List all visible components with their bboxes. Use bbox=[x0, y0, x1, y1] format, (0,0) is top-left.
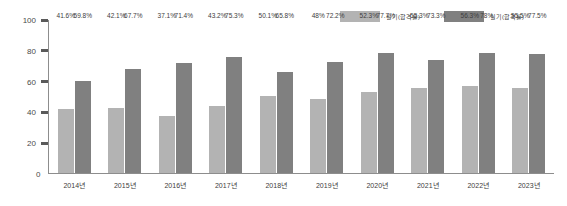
bar-column: 67.7% bbox=[125, 20, 141, 173]
bar-value-label: 59.8% bbox=[74, 12, 92, 19]
bar-value-label: 67.7% bbox=[124, 12, 142, 19]
bar[interactable]: 56.3% bbox=[462, 86, 478, 173]
bar-value-label: 65.8% bbox=[276, 12, 294, 19]
bar-value-label: 55.3% bbox=[410, 12, 428, 19]
bar-value-label: 37.1% bbox=[158, 12, 176, 19]
bar-group: 37.1%71.4% bbox=[150, 20, 201, 173]
plot-area: 020406080100 41.6%59.8%42.1%67.7%37.1%71… bbox=[48, 20, 554, 174]
bar-column: 77.5% bbox=[529, 20, 545, 173]
bar[interactable]: 75.3% bbox=[226, 57, 242, 173]
y-tick-label-20: 20 bbox=[27, 139, 36, 148]
x-axis-label: 2015년 bbox=[100, 180, 151, 190]
bar[interactable]: 71.4% bbox=[176, 63, 192, 173]
y-tick-100: 100 bbox=[41, 19, 48, 22]
bar-value-label: 42.1% bbox=[107, 12, 125, 19]
bar-chart: 필기(합격률) 실기(합격률) 020406080100 41.6%59.8%4… bbox=[0, 0, 567, 206]
bar-group: 43.2%75.3% bbox=[201, 20, 252, 173]
bar-groups: 41.6%59.8%42.1%67.7%37.1%71.4%43.2%75.3%… bbox=[49, 20, 554, 173]
y-tick-20: 20 bbox=[41, 142, 48, 145]
bar-pair: 37.1%71.4% bbox=[150, 20, 201, 173]
bar[interactable]: 50.1% bbox=[260, 96, 276, 173]
bar-pair: 41.6%59.8% bbox=[49, 20, 100, 173]
bar[interactable]: 67.7% bbox=[125, 69, 141, 173]
y-tick-label-80: 80 bbox=[27, 46, 36, 55]
bar-group: 55.5%77.5% bbox=[504, 20, 555, 173]
bar-value-label: 41.6% bbox=[57, 12, 75, 19]
bar[interactable]: 59.8% bbox=[75, 81, 91, 173]
bar-column: 50.1% bbox=[260, 20, 276, 173]
bar[interactable]: 65.8% bbox=[277, 72, 293, 173]
bar-column: 73.3% bbox=[428, 20, 444, 173]
x-axis-label: 2014년 bbox=[49, 180, 100, 190]
bar-pair: 56.3%78% bbox=[453, 20, 504, 173]
bar-pair: 55.5%77.5% bbox=[504, 20, 555, 173]
bar-value-label: 48% bbox=[312, 12, 325, 19]
bar[interactable]: 78% bbox=[479, 53, 495, 173]
bar-group: 52.3%77.7% bbox=[352, 20, 403, 173]
y-tick-40: 40 bbox=[41, 111, 48, 114]
bar-column: 56.3% bbox=[462, 20, 478, 173]
bar-pair: 42.1%67.7% bbox=[100, 20, 151, 173]
x-axis-label: 2016년 bbox=[150, 180, 201, 190]
x-axis-labels: 2014년2015년2016년2017년2018년2019년2020년2021년… bbox=[49, 180, 554, 190]
x-axis-label: 2017년 bbox=[201, 180, 252, 190]
bar[interactable]: 42.1% bbox=[108, 108, 124, 173]
bar[interactable]: 72.2% bbox=[327, 62, 343, 173]
bar[interactable]: 48% bbox=[310, 99, 326, 173]
x-axis-line bbox=[48, 173, 554, 174]
bar-column: 71.4% bbox=[176, 20, 192, 173]
bar[interactable]: 55.3% bbox=[411, 88, 427, 173]
bar-column: 48% bbox=[310, 20, 326, 173]
x-axis-label: 2022년 bbox=[453, 180, 504, 190]
x-axis-label: 2019년 bbox=[302, 180, 353, 190]
x-axis-label: 2020년 bbox=[352, 180, 403, 190]
bar-column: 52.3% bbox=[361, 20, 377, 173]
bar-group: 42.1%67.7% bbox=[100, 20, 151, 173]
bar-pair: 43.2%75.3% bbox=[201, 20, 252, 173]
bar[interactable]: 43.2% bbox=[209, 106, 225, 173]
bar-column: 75.3% bbox=[226, 20, 242, 173]
bar-column: 55.5% bbox=[512, 20, 528, 173]
bar-column: 59.8% bbox=[75, 20, 91, 173]
bar-column: 78% bbox=[479, 20, 495, 173]
y-tick-80: 80 bbox=[41, 49, 48, 52]
bar-column: 41.6% bbox=[58, 20, 74, 173]
bar-pair: 50.1%65.8% bbox=[251, 20, 302, 173]
bar-value-label: 72.2% bbox=[326, 12, 344, 19]
bar-value-label: 77.5% bbox=[528, 12, 546, 19]
bar-value-label: 77.7% bbox=[377, 12, 395, 19]
bar-column: 65.8% bbox=[277, 20, 293, 173]
x-axis-label: 2018년 bbox=[251, 180, 302, 190]
bar-value-label: 50.1% bbox=[259, 12, 277, 19]
bar-group: 48%72.2% bbox=[302, 20, 353, 173]
bar-value-label: 55.5% bbox=[511, 12, 529, 19]
bar-group: 41.6%59.8% bbox=[49, 20, 100, 173]
bar-column: 43.2% bbox=[209, 20, 225, 173]
bar-column: 37.1% bbox=[159, 20, 175, 173]
bar[interactable]: 52.3% bbox=[361, 92, 377, 173]
bar-column: 77.7% bbox=[378, 20, 394, 173]
bar-pair: 55.3%73.3% bbox=[403, 20, 454, 173]
bar[interactable]: 37.1% bbox=[159, 116, 175, 173]
bar-value-label: 52.3% bbox=[360, 12, 378, 19]
bar-value-label: 75.3% bbox=[225, 12, 243, 19]
bar-group: 55.3%73.3% bbox=[403, 20, 454, 173]
x-axis-label: 2023년 bbox=[504, 180, 555, 190]
bar[interactable]: 73.3% bbox=[428, 60, 444, 173]
bar[interactable]: 77.5% bbox=[529, 54, 545, 173]
bar-column: 42.1% bbox=[108, 20, 124, 173]
bar[interactable]: 77.7% bbox=[378, 53, 394, 173]
y-tick-60: 60 bbox=[41, 80, 48, 83]
bar[interactable]: 41.6% bbox=[58, 109, 74, 173]
bar-group: 56.3%78% bbox=[453, 20, 504, 173]
bar[interactable]: 55.5% bbox=[512, 88, 528, 173]
bar-value-label: 43.2% bbox=[208, 12, 226, 19]
bar-pair: 52.3%77.7% bbox=[352, 20, 403, 173]
y-tick-label-0: 0 bbox=[36, 170, 40, 179]
bar-column: 55.3% bbox=[411, 20, 427, 173]
bar-group: 50.1%65.8% bbox=[251, 20, 302, 173]
x-axis-label: 2021년 bbox=[403, 180, 454, 190]
y-tick-label-100: 100 bbox=[23, 16, 36, 25]
bar-value-label: 56.3% bbox=[461, 12, 479, 19]
bar-column: 72.2% bbox=[327, 20, 343, 173]
